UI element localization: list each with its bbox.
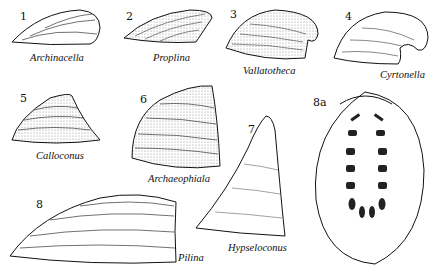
specimen-label: Archaeophiala (148, 173, 210, 184)
specimen-label: Calloconus (36, 150, 84, 161)
specimen-label: Hypseloconus (228, 242, 287, 253)
shell-pilina (10, 195, 176, 263)
figure-number: 4 (345, 10, 352, 23)
figure-number: 6 (140, 93, 147, 106)
specimen-label: Archinacella (30, 52, 84, 63)
shell-pilina-interior (315, 92, 424, 264)
shell-proplina (124, 10, 212, 43)
specimen-label: Proplina (153, 52, 190, 63)
figure-number: 2 (126, 10, 133, 23)
figure-number: 8 (36, 198, 43, 211)
specimen-label: Pilina (178, 252, 204, 263)
shell-illustrations (0, 0, 437, 274)
specimen-label: Vallatotheca (243, 65, 296, 76)
figure-number: 5 (20, 92, 27, 105)
figure-number: 8a (313, 96, 327, 109)
specimen-label: Cyrtonella (380, 69, 425, 80)
figure-number: 7 (248, 123, 255, 136)
shell-vallatotheca (226, 10, 318, 59)
figure-number: 3 (230, 8, 237, 21)
figure-number: 1 (20, 10, 27, 23)
